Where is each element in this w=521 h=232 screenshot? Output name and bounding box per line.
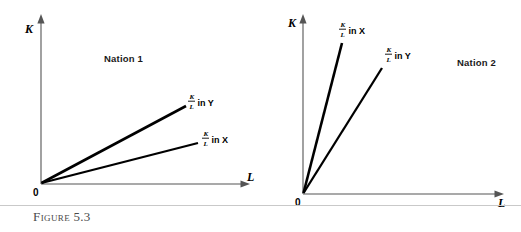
ray-k-over-l-in-y-nation-2 — [304, 68, 383, 193]
figure-caption: Figure 5.3 — [33, 210, 91, 223]
ratio-denominator: L — [386, 56, 391, 64]
y-axis-arrowhead-nation-2 — [299, 14, 306, 24]
figure-canvas: K L 0 Nation 1 K L in Y — [0, 0, 521, 232]
figure-caption-number: 5.3 — [73, 209, 90, 224]
panel-nation-2: K L 0 Nation 2 K L in X — [287, 14, 505, 210]
x-axis-label-nation-2: L — [497, 196, 505, 210]
ray-k-over-l-in-x-nation-1 — [42, 143, 199, 183]
panel-nation-1: K L 0 Nation 1 K L in Y — [24, 14, 254, 198]
ratio-denominator: L — [340, 31, 345, 39]
origin-label-nation-1: 0 — [33, 187, 39, 198]
ratio-suffix: in Y — [395, 51, 411, 61]
ratio-numerator: K — [189, 93, 196, 101]
line-label-k-over-l-in-y-nation-2: K L in Y — [385, 46, 411, 64]
figure-5-3: K L 0 Nation 1 K L in Y — [0, 0, 521, 232]
ratio-numerator: K — [386, 46, 393, 54]
ratio-denominator: L — [203, 140, 208, 148]
y-axis-arrowhead-nation-1 — [37, 14, 44, 24]
ratio-denominator: L — [189, 103, 194, 111]
line-label-k-over-l-in-x-nation-2: K L in X — [339, 21, 365, 39]
y-axis-label-nation-2: K — [287, 16, 297, 30]
panel-title-nation-2: Nation 2 — [457, 57, 496, 68]
line-label-k-over-l-in-y-nation-1: K L in Y — [188, 93, 214, 111]
bottom-divider — [0, 205, 521, 206]
figure-caption-word: Figure — [33, 209, 70, 224]
figure-page: K L 0 Nation 1 K L in Y — [0, 0, 521, 232]
line-label-k-over-l-in-x-nation-1: K L in X — [202, 130, 228, 148]
ratio-suffix: in X — [349, 26, 366, 36]
ray-k-over-l-in-x-nation-2 — [304, 43, 343, 193]
ratio-numerator: K — [203, 130, 210, 138]
x-axis-label-nation-1: L — [246, 170, 254, 184]
panel-title-nation-1: Nation 1 — [104, 53, 144, 64]
ray-k-over-l-in-y-nation-1 — [42, 106, 187, 183]
ratio-numerator: K — [340, 21, 347, 29]
origin-label-nation-2: 0 — [295, 197, 301, 208]
ratio-suffix: in Y — [198, 98, 214, 108]
ratio-suffix: in X — [212, 135, 229, 145]
y-axis-label-nation-1: K — [24, 22, 34, 36]
